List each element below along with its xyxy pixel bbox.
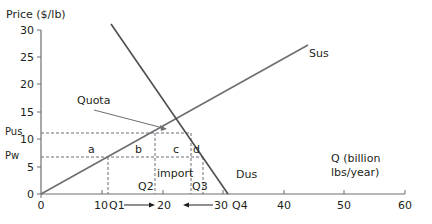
sus-label: Sus <box>309 47 329 60</box>
import-label: import <box>157 167 194 180</box>
dus-label: Dus <box>236 168 257 181</box>
y-tick-15: 15 <box>20 106 34 119</box>
y-tick-20: 20 <box>20 78 34 91</box>
y-tick-0: 0 <box>27 188 34 201</box>
q1-label: Q1 <box>109 199 125 212</box>
q4-label: Q4 <box>232 199 248 212</box>
x-tick-0: 0 <box>38 199 45 212</box>
x-tick-10: 10 <box>94 199 108 212</box>
area-c-label: c <box>173 143 179 156</box>
quota-label: Quota <box>77 94 110 107</box>
quota-arrow-line <box>94 110 163 128</box>
tariff-quota-chart: 0 5 10 15 20 25 30 0 10 20 30 40 50 60 P… <box>0 0 432 224</box>
x-axis-title-line1: Q (billion <box>331 152 380 165</box>
x-axis-title-line2: lbs/year) <box>331 166 379 179</box>
x-tick-40: 40 <box>277 199 291 212</box>
pw-label: Pw <box>5 150 19 161</box>
x-tick-60: 60 <box>398 199 412 212</box>
right-arrow-icon <box>149 203 155 208</box>
area-d-label: d <box>193 143 200 156</box>
area-b-label: b <box>135 143 142 156</box>
y-tick-5: 5 <box>27 161 34 174</box>
y-axis-title: Price ($/lb) <box>6 8 66 21</box>
pus-label: Pus <box>5 126 22 137</box>
q3-label: Q3 <box>192 180 208 193</box>
x-tick-50: 50 <box>337 199 351 212</box>
y-tick-25: 25 <box>20 51 34 64</box>
q2-label: Q2 <box>138 180 154 193</box>
left-arrow-icon <box>183 203 189 208</box>
x-tick-30: 30 <box>214 199 228 212</box>
area-a-label: a <box>88 143 95 156</box>
y-tick-30: 30 <box>20 24 34 37</box>
x-tick-20: 20 <box>157 199 171 212</box>
